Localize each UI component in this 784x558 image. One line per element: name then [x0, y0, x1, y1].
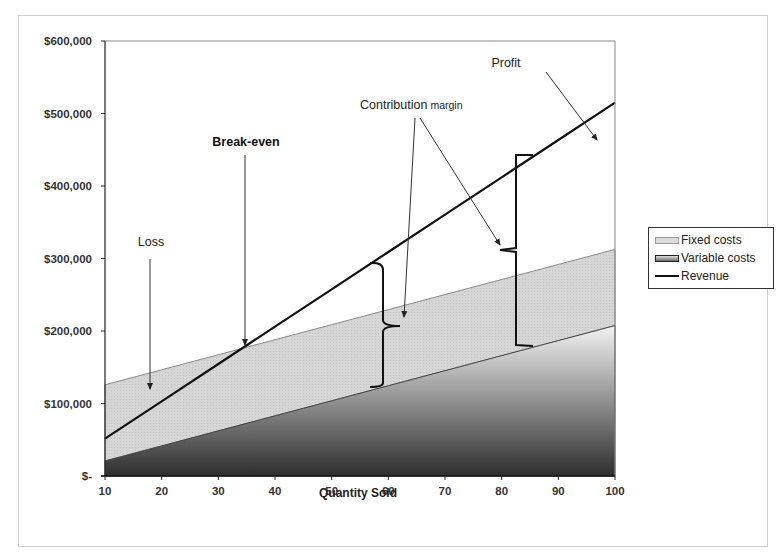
profit-label: Profit — [491, 56, 521, 70]
legend-label: Fixed costs — [681, 233, 742, 247]
x-tick-label: 10 — [99, 485, 112, 497]
legend-item-fixed-costs: Fixed costs — [655, 231, 773, 249]
y-tick-label: $100,000 — [44, 398, 92, 410]
x-tick-label: 70 — [439, 485, 452, 497]
loss-label: Loss — [138, 235, 164, 249]
variable-costs-swatch-icon — [655, 255, 679, 262]
y-tick-label: $300,000 — [44, 253, 92, 265]
y-tick-label: $- — [82, 470, 92, 482]
contribution-arrow-icon — [404, 118, 415, 317]
break-even-label: Break-even — [212, 135, 279, 149]
legend-item-variable-costs: Variable costs — [655, 249, 773, 267]
y-tick-label: $500,000 — [44, 108, 92, 120]
x-tick-label: 90 — [552, 485, 565, 497]
revenue-line-swatch-icon — [655, 275, 679, 277]
contribution-arrow-icon — [420, 118, 500, 245]
x-tick-label: 30 — [212, 485, 225, 497]
legend-label: Revenue — [681, 269, 729, 283]
x-tick-label: 20 — [155, 485, 168, 497]
contribution-margin-label: Contributionmargin — [360, 98, 463, 112]
y-tick-label: $600,000 — [44, 35, 92, 47]
legend-item-revenue: Revenue — [655, 267, 773, 285]
profit-arrow-icon — [546, 72, 597, 140]
x-tick-label: 40 — [269, 485, 282, 497]
plot-area — [105, 103, 615, 476]
y-tick-label: $200,000 — [44, 325, 92, 337]
y-axis-ticks: $-$100,000$200,000$300,000$400,000$500,0… — [44, 35, 105, 482]
x-axis-title: Quantity Sold — [319, 486, 397, 500]
x-tick-label: 80 — [495, 485, 508, 497]
legend-label: Variable costs — [681, 251, 755, 265]
fixed-costs-swatch-icon — [655, 237, 679, 244]
y-tick-label: $400,000 — [44, 180, 92, 192]
x-tick-label: 100 — [605, 485, 624, 497]
legend: Fixed costs Variable costs Revenue — [648, 227, 774, 289]
